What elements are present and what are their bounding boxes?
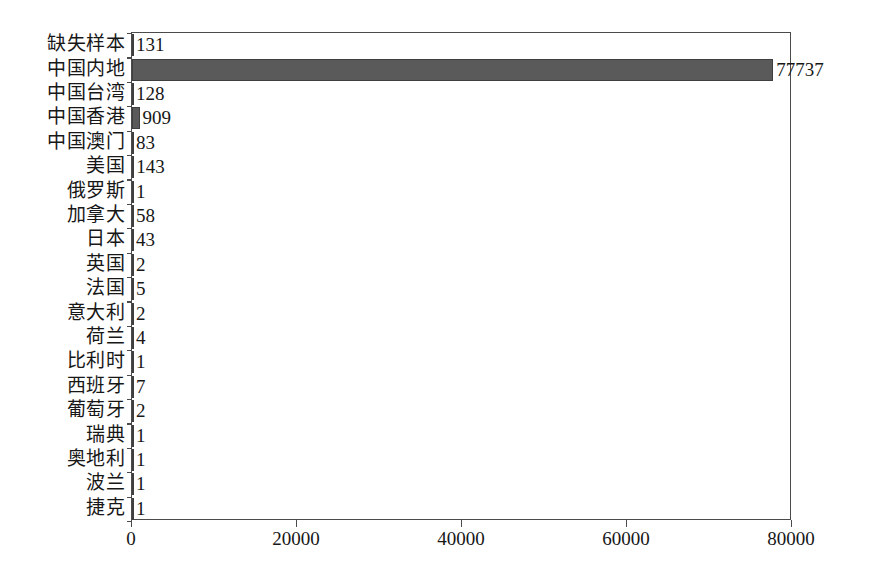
bar	[132, 425, 134, 447]
bar	[132, 34, 134, 56]
category-label: 加拿大	[0, 205, 125, 224]
bar	[132, 473, 134, 495]
bar	[132, 376, 134, 398]
bar-value-label: 1	[136, 182, 146, 201]
bar	[132, 327, 134, 349]
bar-value-label: 128	[136, 84, 165, 103]
bar-value-label: 5	[136, 279, 146, 298]
category-label: 奥地利	[0, 449, 125, 468]
bar-value-label: 143	[136, 157, 165, 176]
category-label: 英国	[0, 254, 125, 273]
bar	[132, 254, 134, 276]
bar-value-label: 1	[136, 499, 146, 518]
x-axis-tick-label: 0	[126, 529, 136, 549]
bar-chart: 缺失样本中国内地中国台湾中国香港中国澳门美国俄罗斯加拿大日本英国法国意大利荷兰比…	[0, 0, 877, 573]
bar	[132, 278, 134, 300]
bar	[132, 229, 134, 251]
category-label: 俄罗斯	[0, 181, 125, 200]
bar-value-label: 2	[136, 401, 146, 420]
category-label: 中国澳门	[0, 132, 125, 151]
bar	[132, 156, 134, 178]
plot-area: 13177737128909831431584325241721111	[131, 32, 791, 520]
x-axis-tick	[131, 520, 132, 527]
category-label: 比利时	[0, 351, 125, 370]
bar	[132, 303, 134, 325]
category-label: 法国	[0, 278, 125, 297]
category-label: 日本	[0, 229, 125, 248]
category-label: 中国内地	[0, 59, 125, 78]
plot-inner: 13177737128909831431584325241721111	[132, 33, 790, 519]
bar-value-label: 83	[136, 133, 155, 152]
bar	[132, 205, 134, 227]
category-label: 中国香港	[0, 107, 125, 126]
bar-value-label: 77737	[776, 60, 824, 79]
bar-value-label: 1	[136, 450, 146, 469]
bar	[132, 351, 134, 373]
category-label: 荷兰	[0, 327, 125, 346]
bar	[132, 132, 134, 154]
category-label: 缺失样本	[0, 34, 125, 53]
x-axis-tick	[461, 520, 462, 527]
bar	[132, 498, 134, 520]
bar	[132, 400, 134, 422]
bar-value-label: 1	[136, 352, 146, 371]
bar-value-label: 4	[136, 328, 146, 347]
category-label: 意大利	[0, 303, 125, 322]
bar	[132, 107, 140, 129]
y-axis-category-labels: 缺失样本中国内地中国台湾中国香港中国澳门美国俄罗斯加拿大日本英国法国意大利荷兰比…	[0, 32, 128, 520]
category-label: 中国台湾	[0, 83, 125, 102]
category-label: 捷克	[0, 498, 125, 517]
bar	[132, 449, 134, 471]
category-label: 瑞典	[0, 425, 125, 444]
x-axis-tick-label: 20000	[272, 529, 320, 549]
bar-value-label: 131	[136, 35, 165, 54]
bar-value-label: 909	[143, 108, 172, 127]
x-axis-tick	[626, 520, 627, 527]
bar-value-label: 2	[136, 304, 146, 323]
bar-value-label: 1	[136, 426, 146, 445]
category-label: 西班牙	[0, 376, 125, 395]
x-axis: 020000400006000080000	[131, 520, 791, 566]
x-axis-tick-label: 40000	[437, 529, 485, 549]
bar-value-label: 1	[136, 474, 146, 493]
bar-value-label: 58	[136, 206, 155, 225]
bar-value-label: 43	[136, 230, 155, 249]
x-axis-tick-label: 80000	[767, 529, 815, 549]
bar	[132, 83, 134, 105]
category-label: 波兰	[0, 473, 125, 492]
x-axis-tick-label: 60000	[602, 529, 650, 549]
bar-value-label: 7	[136, 377, 146, 396]
bar	[132, 181, 134, 203]
x-axis-tick	[296, 520, 297, 527]
category-label: 美国	[0, 156, 125, 175]
bar	[132, 59, 773, 81]
bar-value-label: 2	[136, 255, 146, 274]
category-label: 葡萄牙	[0, 400, 125, 419]
x-axis-tick	[791, 520, 792, 527]
